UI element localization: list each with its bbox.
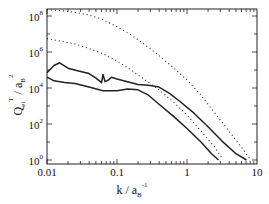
series-solid-upper [47,63,247,160]
y-tick-label: 106 [29,45,44,59]
x-axis-ticks: 0.010.1110 [37,9,263,178]
y-tick-label: 102 [29,117,44,131]
x-tick-label: 0.01 [37,166,56,178]
x-axis-label: k / aB-1 [116,181,148,199]
y-tick-label: 100 [29,153,44,167]
chart: 0.010.1110 100102104106108 k / aB-1 QeiT… [0,0,269,204]
y-tick-label: 108 [29,9,44,23]
x-tick-label: 1 [184,166,190,178]
x-tick-label: 0.1 [110,166,124,178]
series-solid-lower [47,77,219,160]
y-tick-label: 104 [29,81,44,95]
series-dotted-lower [47,39,222,159]
data-series [47,10,250,160]
y-axis-ticks: 100102104106108 [29,9,258,167]
x-tick-label: 10 [252,166,264,178]
y-axis-label: QeiT / aB2 [7,74,27,115]
